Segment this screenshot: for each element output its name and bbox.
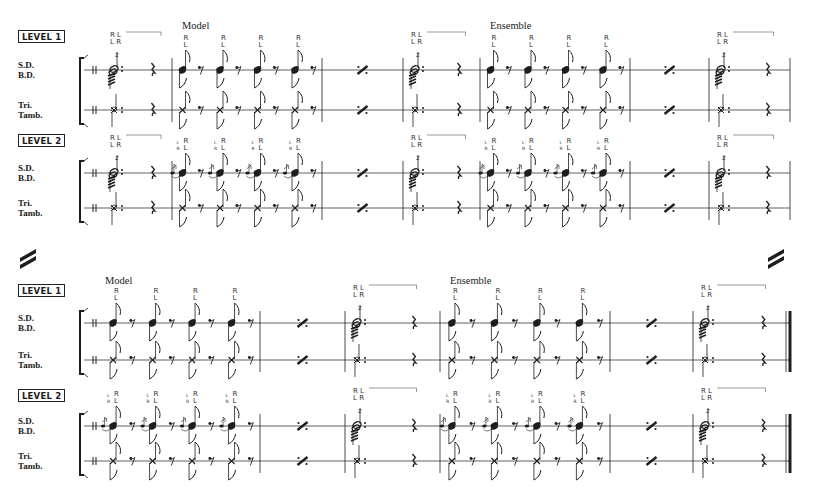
sticking-left: L <box>296 144 300 152</box>
roll-bracket <box>733 32 774 36</box>
eighth-rest <box>618 66 621 69</box>
flag-down <box>150 470 157 480</box>
measure-2: RLRLRLRL <box>178 34 316 129</box>
eighth-rest <box>170 357 174 365</box>
roll-sticking: R LL R <box>701 387 766 402</box>
eighth-rest <box>310 169 313 172</box>
level-1-group: RLRLRLRLzR LL RRLRLRLRLzR LL R <box>80 284 790 379</box>
flag-up <box>261 189 266 201</box>
tremolo-slash <box>699 332 706 335</box>
measure-4: RLLRRLLRRLLRRLLR <box>440 390 603 480</box>
measure-repeat <box>654 463 656 465</box>
eighth-rest <box>131 320 135 328</box>
flag-down <box>491 331 498 341</box>
flag-up <box>606 189 611 201</box>
roll-bracket <box>427 135 466 139</box>
flag-up <box>195 442 200 454</box>
eighth-rest <box>274 205 278 213</box>
eighth-rest <box>273 204 276 207</box>
grace-sticking: L <box>226 393 229 398</box>
flag-up <box>156 341 161 353</box>
roll-sticking: R LL R <box>411 134 466 149</box>
eighth-rest <box>555 422 558 425</box>
quarter-rest <box>457 103 461 116</box>
flag-up <box>531 189 536 201</box>
flag-up <box>494 153 499 165</box>
eighth-rest <box>506 169 509 172</box>
flag-up <box>540 341 545 353</box>
quarter-rest <box>412 454 416 467</box>
flag-up <box>195 303 200 315</box>
flag-up <box>497 303 502 315</box>
flam-slur <box>247 176 255 178</box>
sticking-label: RL <box>538 287 543 302</box>
eighth-rest <box>545 67 549 75</box>
flag-down <box>229 470 236 480</box>
grace-sticking: R <box>177 146 180 151</box>
sticking-left: L <box>538 294 542 302</box>
eighth-rest <box>620 170 624 178</box>
flag-down <box>292 217 299 227</box>
flag-up <box>455 303 460 315</box>
eighth-rest <box>597 356 600 359</box>
measure-repeat <box>357 106 359 108</box>
quarter-rest <box>762 419 766 432</box>
sticking-label: RL <box>580 287 585 302</box>
flag-up <box>235 341 240 353</box>
grace-sticking: L <box>522 140 525 145</box>
tremolo-slash <box>108 182 115 185</box>
measure-repeat <box>305 428 307 430</box>
eighth-rest <box>237 107 241 115</box>
flag-up <box>116 303 121 315</box>
eighth-rest <box>248 319 251 322</box>
eighth-rest <box>514 423 518 431</box>
flag-up <box>455 406 460 418</box>
eighth-rest <box>582 205 586 213</box>
flag-down <box>576 369 583 379</box>
eighth-rest <box>620 205 624 213</box>
roll-sticking: R LL R <box>110 134 161 149</box>
eighth-rest <box>543 204 546 207</box>
grace-sticking: L <box>446 393 449 398</box>
augmentation-dot <box>422 173 424 175</box>
sticking-left: L <box>193 294 197 302</box>
eighth-rest <box>170 320 174 328</box>
tremolo-slash <box>715 79 722 82</box>
flag-up <box>531 50 536 62</box>
measure-repeat <box>664 204 666 206</box>
eighth-rest <box>274 170 278 178</box>
measure-5: RLLRRLLRRLLRRLLR <box>478 137 624 227</box>
augmentation-dot <box>364 361 366 363</box>
sticking-left: L <box>296 41 300 49</box>
eighth-rest <box>506 66 509 69</box>
grace-sticking: R <box>107 399 110 404</box>
flag-up <box>606 91 611 103</box>
grace-sticking: L <box>186 393 189 398</box>
sticking-label: RL <box>604 34 609 49</box>
flag-up <box>156 406 161 418</box>
augmentation-dot <box>422 209 424 211</box>
eighth-rest <box>543 66 546 69</box>
sticking-label: RL <box>567 34 572 49</box>
eighth-rest <box>582 170 586 178</box>
augmentation-dot <box>422 107 424 109</box>
eighth-rest <box>512 422 515 425</box>
measure-repeat <box>357 66 359 68</box>
measure-2 <box>297 319 307 364</box>
roll-sticking: R LL R <box>717 134 774 149</box>
eighth-rest <box>581 169 584 172</box>
augmentation-dot <box>728 70 730 72</box>
measure-3 <box>357 66 367 114</box>
sticking-left: L <box>495 294 499 302</box>
flag-down <box>488 119 495 129</box>
sticking-label: RLLR <box>446 390 458 405</box>
quarter-rest <box>457 166 461 179</box>
quarter-rest <box>412 419 416 432</box>
measure-5 <box>646 319 656 364</box>
augmentation-dot <box>422 111 424 113</box>
flag-up <box>494 189 499 201</box>
quarter-rest <box>457 201 461 214</box>
grace-sticking: L <box>177 140 180 145</box>
grace-sticking: L <box>289 140 292 145</box>
flag-down <box>576 331 583 341</box>
